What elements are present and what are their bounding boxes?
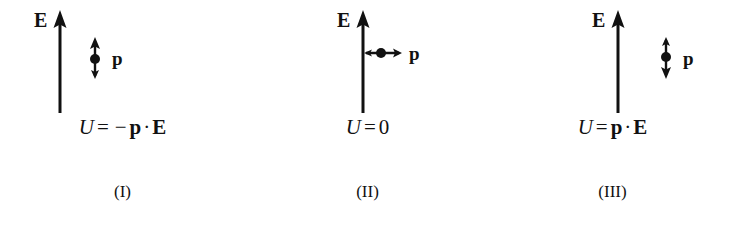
dipole-arrow-right-icon (363, 42, 403, 64)
dipole-label-3: p (683, 49, 694, 68)
formula-vector-p-3: p (611, 115, 623, 139)
formula-vector-e-1: E (152, 115, 166, 139)
energy-formula-1: U=−p·E (0, 117, 245, 138)
dipole-group-2: p (363, 42, 443, 86)
dipole-label-1: p (112, 49, 123, 68)
panel-case-2: E p U=0 (II) (245, 0, 490, 229)
formula-lhs-3: U (578, 115, 593, 139)
dipole-group-3: p (655, 36, 715, 80)
panel-case-1: E p U=−p·E (I) (0, 0, 245, 229)
dipole-arrow-down-icon (655, 36, 677, 80)
field-label-3: E (592, 10, 606, 30)
field-label-1: E (34, 10, 48, 30)
energy-formula-3: U=p·E (490, 117, 735, 138)
dipole-group-1: p (84, 36, 144, 80)
formula-equals-3: = (593, 115, 611, 139)
formula-equals-2: = (361, 115, 379, 139)
formula-lhs-2: U (346, 115, 361, 139)
formula-dot-3: · (622, 115, 633, 139)
panel-caption-2: (II) (245, 183, 490, 200)
formula-vector-p-1: p (130, 115, 142, 139)
dipole-arrow-up-icon (84, 36, 106, 80)
field-label-2: E (337, 10, 351, 30)
dipole-label-2: p (409, 44, 420, 63)
formula-dot-1: · (141, 115, 152, 139)
energy-formula-2: U=0 (245, 117, 490, 138)
formula-lhs-1: U (79, 115, 94, 139)
dipole-energy-figure: E p U=−p·E (I) E (0, 0, 735, 229)
formula-value-2: 0 (379, 115, 390, 139)
formula-sign-1: − (112, 115, 130, 139)
formula-vector-e-3: E (633, 115, 647, 139)
formula-equals-1: = (94, 115, 112, 139)
panel-caption-1: (I) (0, 183, 245, 200)
panel-case-3: E p U=p·E (III) (490, 0, 735, 229)
panel-caption-3: (III) (490, 183, 735, 200)
